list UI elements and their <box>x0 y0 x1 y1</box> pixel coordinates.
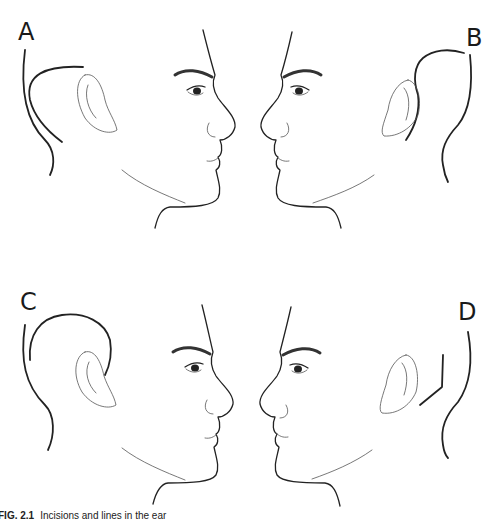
figure-caption: FIG. 2.1Incisions and lines in the ear <box>0 511 166 520</box>
eye-icon <box>294 366 302 373</box>
eye-icon <box>193 88 201 95</box>
eye-icon <box>295 88 303 95</box>
face-illustration-c <box>0 260 248 520</box>
face-illustration-d <box>248 260 496 520</box>
face-illustration-b <box>248 0 496 260</box>
eye-icon <box>191 365 199 372</box>
figure-caption-text: Incisions and lines in the ear <box>40 510 166 520</box>
face-illustration-a <box>0 0 248 260</box>
panel-a: A <box>0 0 248 260</box>
panel-c: C <box>0 260 248 520</box>
figure-number: FIG. 2.1 <box>0 510 34 520</box>
panel-b: B <box>248 0 496 260</box>
panel-d: D <box>248 260 496 520</box>
